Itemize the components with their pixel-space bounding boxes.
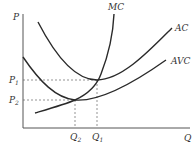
ac-label: AC bbox=[174, 23, 188, 33]
p2-label: P2 bbox=[8, 95, 19, 106]
p1-label: P1 bbox=[8, 75, 19, 86]
mc-label: MC bbox=[107, 2, 124, 12]
avc-label: AVC bbox=[170, 56, 191, 66]
x-axis-label: Q bbox=[184, 133, 192, 143]
avc-curve bbox=[23, 57, 166, 100]
mc-curve bbox=[35, 14, 114, 113]
q2-label: Q2 bbox=[70, 132, 81, 143]
y-axis-label: P bbox=[12, 12, 20, 22]
cost-curves-diagram: P Q MC AC AVC P1 P2 Q2 Q1 bbox=[0, 0, 196, 150]
ac-curve bbox=[38, 22, 172, 80]
q1-label: Q1 bbox=[92, 132, 103, 143]
